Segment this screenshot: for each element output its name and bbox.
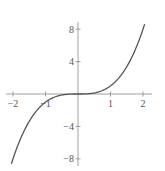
x-tick-label: 1 xyxy=(108,98,113,109)
y-tick-label: −8 xyxy=(63,153,74,164)
x-tick-label: −2 xyxy=(8,98,19,109)
y-tick-label: 8 xyxy=(69,24,74,35)
cubic-function-plot: −2−11284−4−8 xyxy=(0,0,165,171)
x-tick-label: 2 xyxy=(141,98,146,109)
y-tick-label: 4 xyxy=(69,56,74,67)
y-tick-label: −4 xyxy=(63,121,74,132)
